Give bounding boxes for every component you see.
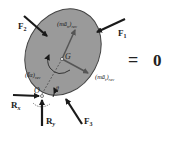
- equals-sign: =: [128, 50, 138, 70]
- center-of-mass-point: [61, 58, 64, 61]
- theta-label: θ: [56, 85, 59, 91]
- f3-label: F3: [84, 116, 93, 127]
- f3-arrow: [66, 99, 82, 124]
- mat-label: (māt)rev: [95, 73, 114, 82]
- ry-label: Ry: [46, 116, 56, 127]
- g-label: G: [65, 52, 71, 61]
- f2-label: F2: [18, 21, 27, 32]
- free-body-diagram: F2 F1 F3 Rx Ry G O θ (mān)rev (māt)rev (…: [0, 0, 176, 142]
- rx-arrow: [13, 95, 39, 96]
- f1-label: F1: [118, 28, 127, 39]
- o-label: O: [34, 86, 40, 95]
- zero-value: 0: [153, 51, 162, 70]
- rx-label: Rx: [11, 100, 21, 111]
- pivot-point: [41, 95, 44, 98]
